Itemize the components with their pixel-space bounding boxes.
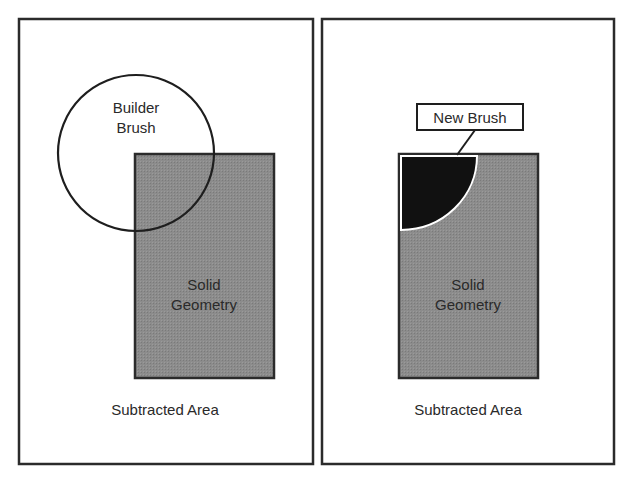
builder-brush-label-line2: Brush <box>116 119 155 136</box>
solid-geometry-label-line1: Solid <box>451 276 484 293</box>
solid-geometry-label-line2: Geometry <box>171 296 237 313</box>
subtracted-area-label: Subtracted Area <box>111 401 219 418</box>
subtracted-area-label: Subtracted Area <box>414 401 522 418</box>
solid-geometry-label-line2: Geometry <box>435 296 501 313</box>
new-brush-label: New Brush <box>433 109 506 126</box>
builder-brush-label-line1: Builder <box>113 99 160 116</box>
solid-geometry-label-line1: Solid <box>187 276 220 293</box>
left-panel: Builder Brush Solid Geometry Subtracted … <box>19 19 313 464</box>
solid-geometry-block <box>135 154 274 378</box>
right-panel: New Brush Solid Geometry Subtracted Area <box>322 19 614 464</box>
csg-subtraction-diagram: Builder Brush Solid Geometry Subtracted … <box>0 0 632 483</box>
